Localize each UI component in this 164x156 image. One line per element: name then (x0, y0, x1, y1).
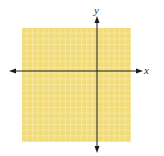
grid-and-axes (0, 0, 164, 156)
y-axis-down-arrow-icon (95, 146, 100, 153)
grid-area (22, 28, 131, 142)
y-axis-up-arrow-icon (95, 16, 100, 23)
x-axis-left-arrow-icon (9, 69, 16, 74)
coordinate-plane: x y (0, 0, 164, 156)
x-axis-label: x (144, 65, 149, 76)
y-axis-label: y (94, 5, 99, 16)
x-axis-right-arrow-icon (136, 69, 143, 74)
